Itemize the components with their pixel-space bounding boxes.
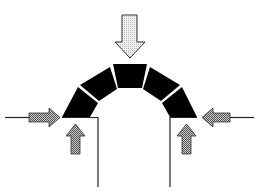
left-reaction-arrow-up-icon (66, 124, 85, 154)
voussoir-3-keystone (113, 64, 147, 88)
right-reaction-arrow-up-icon (177, 124, 196, 154)
arch-force-diagram (0, 0, 262, 192)
load-arrow-down-icon (115, 15, 145, 58)
right-thrust-arrow-left-icon (202, 108, 230, 127)
left-thrust-arrow-right-icon (29, 108, 60, 127)
arch (62, 64, 197, 117)
